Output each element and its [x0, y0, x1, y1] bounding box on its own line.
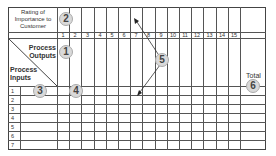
column-number: 5 [106, 32, 118, 38]
process-outputs-label: Process Outputs [24, 44, 56, 60]
rating-label: Rating of Importance to Customer [9, 9, 57, 30]
row-number: 4 [11, 115, 14, 121]
outputs-line: Outputs [24, 52, 56, 60]
callout-3: 3 [33, 84, 47, 98]
process-inputs-label: Process Inputs [10, 66, 50, 82]
column-number: 9 [155, 32, 167, 38]
callout-1: 1 [59, 45, 73, 59]
column-number: 4 [94, 32, 106, 38]
callout-6: 6 [246, 79, 260, 93]
row-number: 7 [11, 142, 14, 148]
column-number: 14 [216, 32, 228, 38]
row-number: 3 [11, 106, 14, 112]
row-number: 1 [11, 88, 14, 94]
column-number: 6 [118, 32, 130, 38]
column-number: 8 [142, 32, 155, 38]
column-number: 11 [179, 32, 191, 38]
column-number: 7 [130, 32, 142, 38]
column-number: 15 [228, 32, 240, 38]
inputs-line: Process [10, 66, 50, 74]
row-number: 5 [11, 124, 14, 130]
column-number: 10 [167, 32, 179, 38]
row-number: 2 [11, 97, 14, 103]
callout-5: 5 [155, 53, 169, 67]
callout-2: 2 [59, 12, 73, 26]
row-number: 6 [11, 133, 14, 139]
column-number: 1 [57, 32, 69, 38]
column-number: 2 [69, 32, 81, 38]
total-label: Total [241, 72, 266, 79]
rating-label-line: Importance to [9, 16, 57, 23]
column-number: 3 [81, 32, 94, 38]
rating-label-line: Customer [9, 23, 57, 30]
column-number: 13 [203, 32, 216, 38]
column-number: 12 [191, 32, 203, 38]
rating-label-line: Rating of [9, 9, 57, 16]
inputs-line: Inputs [10, 74, 50, 82]
outputs-line: Process [24, 44, 56, 52]
callout-4: 4 [69, 84, 83, 98]
